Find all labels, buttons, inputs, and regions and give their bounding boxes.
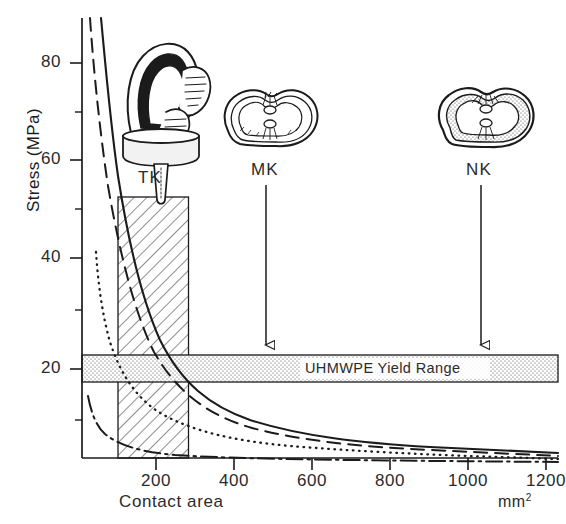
y-major-ticks [70, 63, 82, 369]
x-tick-label-600: 600 [282, 471, 342, 491]
stress-contact-area-chart: Stress (MPa) 80 60 40 20 200 400 600 800… [0, 0, 566, 524]
x-tick-label-400: 400 [204, 471, 264, 491]
y-tick-label-60: 60 [21, 149, 61, 169]
y-minor-ticks [75, 112, 82, 420]
nk-knee-icon [439, 88, 534, 147]
x-tick-label-1000: 1000 [438, 471, 498, 491]
x-axis-unit: mm2 [498, 492, 532, 511]
chart-svg [0, 0, 566, 524]
x-tick-label-200: 200 [126, 471, 186, 491]
specimen-label-mk: MK [251, 160, 279, 180]
x-axis-title: Contact area [119, 492, 224, 512]
mk-knee-icon [225, 90, 318, 146]
specimen-label-tk: TK [138, 168, 162, 188]
x-tick-label-1200: 1200 [516, 471, 566, 491]
x-axis-unit-exponent: 2 [526, 492, 532, 503]
specimen-label-nk: NK [466, 160, 492, 180]
y-tick-label-20: 20 [21, 358, 61, 378]
x-tick-label-800: 800 [360, 471, 420, 491]
tk-prosthesis-icon [123, 44, 210, 204]
x-axis-unit-text: mm [498, 493, 526, 510]
y-tick-label-80: 80 [21, 52, 61, 72]
uhmwpe-band-label: UHMWPE Yield Range [305, 360, 460, 376]
y-tick-label-40: 40 [21, 247, 61, 267]
annotation-arrows [266, 185, 481, 345]
